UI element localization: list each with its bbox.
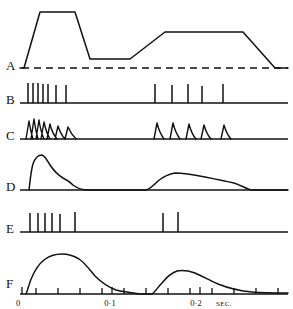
trace-a-label: A xyxy=(6,58,16,73)
trace-c-label: C xyxy=(6,128,15,143)
trace-e-group: E xyxy=(6,212,288,236)
trace-b-group: B xyxy=(6,83,288,107)
trace-e-label: E xyxy=(6,221,14,236)
figure-canvas: A B C xyxy=(0,0,293,309)
trace-e-spikes xyxy=(30,212,178,232)
physiology-recording-figure: A B C xyxy=(0,0,293,309)
trace-c-group: C xyxy=(6,119,288,143)
trace-d-curve xyxy=(29,155,288,190)
trace-a-group: A xyxy=(6,12,288,73)
axis-tick-label-0: 0 xyxy=(16,298,20,308)
trace-d-label: D xyxy=(6,179,15,194)
trace-f-label: F xyxy=(6,276,13,291)
axis-tick-label-02: 0·2 xyxy=(190,298,201,308)
trace-f-curve xyxy=(26,254,288,294)
trace-f-group: F 0 0·1 0·2 SEC. xyxy=(6,254,288,308)
trace-b-spikes xyxy=(28,83,223,103)
axis-tick-label-01: 0·1 xyxy=(104,298,115,308)
trace-c-spikes xyxy=(26,119,76,139)
trace-c-spikes-second xyxy=(154,123,231,139)
axis-unit-label: SEC. xyxy=(216,300,232,308)
trace-a-curve xyxy=(20,12,288,68)
trace-b-label: B xyxy=(6,92,15,107)
trace-d-group: D xyxy=(6,155,288,194)
